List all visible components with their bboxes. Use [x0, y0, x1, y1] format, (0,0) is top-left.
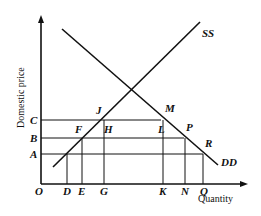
supply-label: SS — [202, 27, 214, 39]
point-label-m: M — [164, 102, 176, 114]
point-label-f: F — [74, 123, 83, 135]
price-label-b: B — [29, 132, 37, 144]
price-label-a: A — [29, 148, 37, 160]
x-axis-arrow-icon — [240, 181, 248, 187]
point-label-l: L — [157, 123, 165, 135]
demand-curve — [62, 29, 218, 165]
point-label-h: H — [103, 123, 113, 135]
quantity-label-e: E — [77, 185, 85, 197]
point-label-r: R — [204, 137, 212, 149]
quantity-label-d: D — [62, 185, 71, 197]
y-axis-arrow-icon — [38, 15, 44, 23]
origin-label: O — [35, 185, 43, 197]
y-axis-title: Domestic price — [15, 67, 26, 128]
quantity-lines — [67, 120, 203, 184]
x-axis-title: Quantity — [198, 193, 233, 204]
quantity-label-g: G — [100, 185, 108, 197]
supply-curve — [53, 22, 200, 167]
price-lines — [41, 120, 203, 154]
point-label-j: J — [95, 104, 102, 116]
price-label-c: C — [30, 114, 38, 126]
point-label-p: P — [186, 121, 193, 133]
quantity-label-k: K — [158, 185, 167, 197]
quantity-label-n: N — [180, 185, 190, 197]
demand-label: DD — [220, 156, 237, 168]
supply-demand-diagram: SS DD C B A O D E G K N Q J F H M L P R … — [0, 0, 261, 216]
